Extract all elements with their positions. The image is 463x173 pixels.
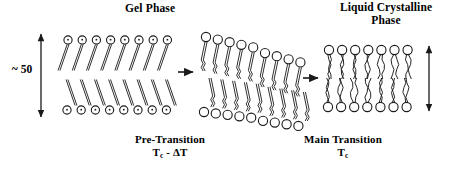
gel-phase-bilayer bbox=[58, 36, 176, 114]
lc-title-line-2: Phase bbox=[340, 14, 432, 27]
main-transition-temperature: Tc bbox=[304, 146, 382, 158]
liquid-crystalline-phase-title: Liquid CrystallinePhase bbox=[340, 1, 432, 27]
pre-transition-label: Pre-TransitionTc - ΔT bbox=[135, 133, 205, 159]
pre-transition-temperature: Tc - ΔT bbox=[135, 146, 205, 158]
bilayer-thickness-label: ~ 50 bbox=[12, 63, 32, 76]
main-transition-name: Main Transition bbox=[304, 133, 382, 145]
ripple-phase-bilayer bbox=[199, 32, 309, 130]
gel-phase-title: Gel Phase bbox=[125, 2, 175, 15]
temp-symbol: T bbox=[338, 146, 345, 158]
temp-symbol: T bbox=[153, 146, 160, 158]
temp-subscript: c bbox=[160, 151, 163, 160]
lc-title-line-1: Liquid Crystalline bbox=[340, 1, 432, 13]
pre-transition-name: Pre-Transition bbox=[135, 133, 205, 145]
liquid-crystalline-phase-bilayer bbox=[323, 45, 412, 111]
temp-delta: - ΔT bbox=[163, 146, 187, 158]
temp-subscript: c bbox=[345, 151, 348, 160]
main-transition-label: Main TransitionTc bbox=[304, 133, 382, 159]
lipid-bilayer-phase-diagram: Gel Phase Liquid CrystallinePhase Pre-Tr… bbox=[0, 0, 463, 173]
